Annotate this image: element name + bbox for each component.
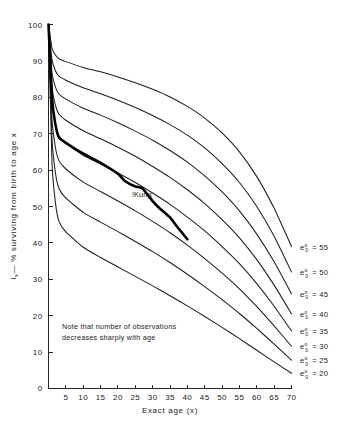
x-tick-label: 30 (148, 393, 158, 402)
x-tick-label: 25 (130, 393, 140, 402)
y-tick-label: 50 (33, 203, 43, 212)
x-tick-label: 60 (252, 393, 262, 402)
y-tick-label: 90 (33, 57, 43, 66)
y-tick-label: 40 (33, 239, 43, 248)
x-tick-label: 5 (63, 393, 68, 402)
x-tick-label: 40 (183, 393, 193, 402)
legend-item: eo0 = 45 (300, 289, 328, 301)
x-tick-label: 50 (217, 393, 227, 402)
y-tick-label: 10 (33, 348, 43, 357)
y-axis-title: lx— % surviving from birth to age x (9, 133, 19, 280)
y-tick-label: 30 (33, 275, 43, 284)
legend-item-label: eo0 = 35 (300, 326, 328, 338)
legend-item-label: eo0 = 55 (300, 242, 328, 254)
legend-item-label: eo0 = 50 (300, 267, 328, 279)
legend-item: eo0 = 35 (300, 326, 328, 338)
x-tick-label: 15 (96, 393, 106, 402)
legend-item: eo0 = 25 (300, 355, 328, 367)
legend-item-label: eo0 = 20 (300, 368, 328, 380)
x-tick-label: 20 (113, 393, 123, 402)
survivorship-chart-figure: 5101520253035404550556065700102030405060… (0, 0, 349, 437)
legend-item: eo0 = 20 (300, 368, 328, 380)
legend-item-label: eo0 = 45 (300, 289, 328, 301)
note-line-1: Note that number of observations (62, 322, 176, 331)
legend-item: eo0 = 50 (300, 267, 328, 279)
x-tick-label: 10 (78, 393, 88, 402)
y-tick-label: 70 (33, 130, 43, 139)
x-axis-title: Exact age (x) (142, 406, 198, 415)
y-tick-label: 100 (28, 21, 43, 30)
x-tick-label: 65 (269, 393, 279, 402)
y-tick-label: 80 (33, 93, 43, 102)
y-tick-label: 60 (33, 166, 43, 175)
x-tick-label: 70 (287, 393, 297, 402)
legend-item-label: eo0 = 25 (300, 355, 328, 367)
x-tick-label: 45 (200, 393, 210, 402)
origin-tick-label: 0 (38, 384, 43, 393)
y-axis-title-rest: — % surviving from birth to age x (9, 133, 18, 274)
legend-item: eo0 = 40 (300, 309, 328, 321)
legend-item-label: eo0 = 30 (300, 341, 328, 353)
legend-item: eo0 = 55 (300, 242, 328, 254)
kung-curve-label: !Kung (132, 190, 152, 199)
x-tick-label: 35 (165, 393, 175, 402)
chart-svg: 5101520253035404550556065700102030405060… (0, 0, 349, 437)
x-tick-label: 55 (235, 393, 245, 402)
legend-item-label: eo0 = 40 (300, 309, 328, 321)
y-axis-title-group: lx— % surviving from birth to age x (9, 133, 19, 280)
legend-item: eo0 = 30 (300, 341, 328, 353)
y-tick-label: 20 (33, 312, 43, 321)
note-line-2: decreases sharply with age (62, 333, 156, 342)
chart-background (0, 0, 349, 437)
